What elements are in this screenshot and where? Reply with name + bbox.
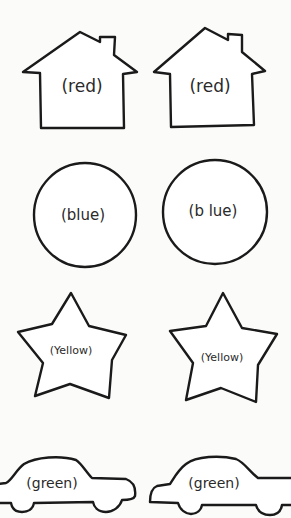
- house-label: (red): [189, 76, 230, 96]
- shapes-canvas: (red) (red) (blue) (b lue) (Yellow) (Yel…: [0, 0, 291, 518]
- coloring-sheet: (red) (red) (blue) (b lue) (Yellow) (Yel…: [0, 0, 291, 518]
- star-shape-left: (Yellow): [18, 293, 126, 398]
- house-shape-left: (red): [23, 32, 137, 128]
- car-label: (green): [26, 475, 77, 491]
- car-shape-right: (green): [150, 457, 291, 515]
- circle-label: (blue): [61, 206, 105, 224]
- star-label: (Yellow): [50, 344, 92, 357]
- car-shape-left: (green): [0, 457, 135, 512]
- circle-label: (b lue): [189, 202, 238, 220]
- star-label: (Yellow): [201, 351, 243, 364]
- circle-shape-right: (b lue): [163, 160, 267, 264]
- house-shape-right: (red): [154, 28, 265, 127]
- star-outline-icon: [170, 293, 277, 402]
- circle-shape-left: (blue): [34, 163, 136, 267]
- car-label: (green): [188, 475, 239, 491]
- star-shape-right: (Yellow): [170, 293, 277, 402]
- house-label: (red): [61, 76, 102, 96]
